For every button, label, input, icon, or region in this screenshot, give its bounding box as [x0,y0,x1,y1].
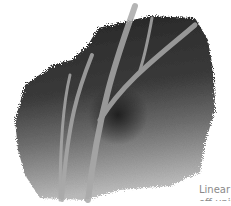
watercolor-tree-illustration [0,0,231,206]
caption-line-1: Linear [199,184,230,195]
caption: Linear off unit [199,183,231,201]
caption-line-2: off unit [199,196,231,201]
